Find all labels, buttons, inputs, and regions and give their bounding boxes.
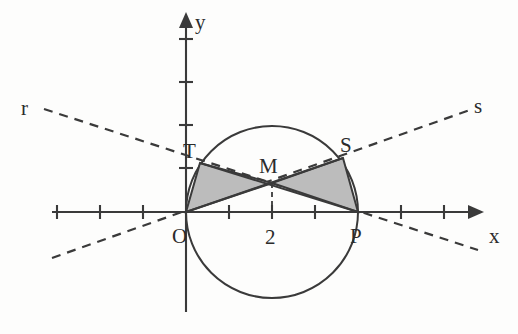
point-label-T: T — [183, 139, 196, 163]
line-label-r: r — [21, 96, 28, 120]
x-tick-label-2: 2 — [265, 225, 276, 249]
y-axis-label: y — [195, 10, 206, 34]
line-label-s: s — [474, 94, 482, 118]
x-axis-label: x — [489, 224, 500, 248]
geometry-figure: O P T S M r s x y 2 — [0, 0, 518, 334]
diagram-canvas: O P T S M r s x y 2 — [0, 0, 518, 334]
x-axis-arrow-icon — [468, 205, 484, 219]
point-label-P: P — [350, 224, 362, 248]
point-label-S: S — [340, 133, 352, 157]
point-label-M: M — [259, 154, 278, 178]
triangle-MSP-shaded — [272, 158, 358, 212]
point-label-O: O — [172, 224, 187, 248]
y-axis-arrow-icon — [179, 12, 193, 28]
